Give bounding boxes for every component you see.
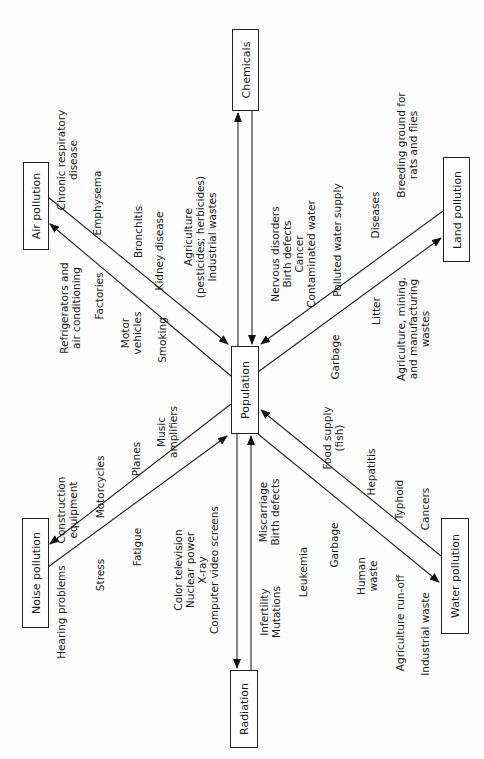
node-label: Population <box>239 361 252 419</box>
label-land-source: Garbage <box>329 334 341 379</box>
pollution-diagram: Population Chemicals Air pollution Land … <box>0 0 484 759</box>
label-air-effect: Bronchitis <box>132 206 144 258</box>
label-water-source: Agriculture run-off <box>394 575 406 671</box>
label-radiation-effect: Leukemia <box>297 547 309 598</box>
label-land-source: Litter <box>370 297 382 325</box>
label-water-effect: Typhoid <box>393 480 405 520</box>
node-label: Land pollution <box>450 170 463 248</box>
label-chemical-effect: Nervous disorders Birth defects Cancer C… <box>269 200 317 308</box>
label-water-source: Human waste <box>355 557 379 595</box>
label-air-source: Smoking <box>156 317 168 363</box>
label-noise-source: Music amplifiers <box>155 406 179 458</box>
label-air-effect: Chronic respiratory disease <box>55 110 79 211</box>
label-noise-effect: Stress <box>94 559 106 591</box>
label-water-source: Garbage <box>328 522 340 567</box>
label-air-effect: Kidney disease <box>153 211 165 290</box>
label-air-effect: Emphysema <box>91 171 103 236</box>
label-land-effect: Diseases <box>369 192 381 239</box>
label-air-effect: Agriculture (pesticides; herbicides) Ind… <box>182 176 218 298</box>
label-water-effect: Cancers <box>419 488 431 530</box>
node-noise-pollution: Noise pollution <box>22 518 49 628</box>
node-radiation: Radiation <box>230 670 258 748</box>
label-noise-source: Motorcycles <box>94 456 106 519</box>
node-label: Water pollution <box>449 534 462 618</box>
label-noise-source: Construction equipment <box>55 477 79 544</box>
node-label: Chemicals <box>239 42 252 99</box>
label-water-effect: Hepatitis <box>365 449 377 496</box>
label-land-effect: Breeding ground for rats and flies <box>395 92 419 197</box>
label-noise-effect: Fatigue <box>131 528 143 566</box>
label-land-source: Agriculture, mining, and manufacturing w… <box>395 277 431 381</box>
node-population: Population <box>231 346 259 434</box>
node-land-pollution: Land pollution <box>443 157 470 262</box>
node-chemicals: Chemicals <box>232 29 259 111</box>
label-air-source: Factories <box>93 273 105 320</box>
node-label: Radiation <box>238 683 251 735</box>
label-radiation-source: Color television Nuclear power X-ray Com… <box>172 506 220 634</box>
label-water-effect: Food supply (fish) <box>321 406 345 469</box>
node-air-pollution: Air pollution <box>23 162 49 250</box>
label-air-source: Refrigerators and air conditioning <box>58 262 82 354</box>
node-label: Noise pollution <box>29 532 42 614</box>
label-noise-effect: Hearing problems <box>55 565 67 659</box>
label-air-source: Motor vehicles <box>119 312 143 355</box>
node-water-pollution: Water pollution <box>441 518 469 634</box>
node-label: Air pollution <box>30 173 43 239</box>
label-radiation-effect: Miscarriage Birth defects <box>257 478 281 545</box>
label-radiation-effect: Infertility Mutations <box>258 586 282 638</box>
label-water-source: Industrial waste <box>419 592 431 676</box>
label-noise-source: Planes <box>130 442 142 476</box>
label-land-effect: Polluted water supply <box>331 183 343 296</box>
